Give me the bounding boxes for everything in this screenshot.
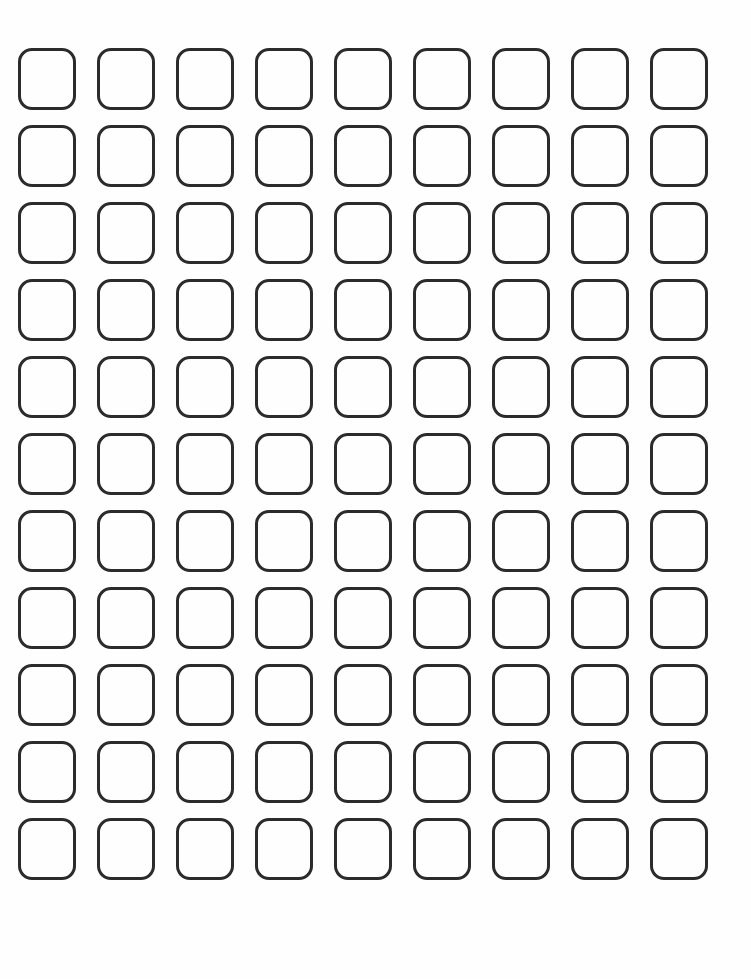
grid-cell[interactable] [255, 741, 313, 803]
grid-cell[interactable] [571, 48, 629, 110]
grid-cell[interactable] [334, 433, 392, 495]
grid-cell[interactable] [176, 664, 234, 726]
grid-cell[interactable] [97, 356, 155, 418]
grid-cell[interactable] [334, 587, 392, 649]
rounded-square-icon [650, 510, 708, 572]
grid-cell[interactable] [18, 279, 76, 341]
grid-cell[interactable] [650, 818, 708, 880]
grid-cell[interactable] [334, 356, 392, 418]
grid-cell[interactable] [571, 818, 629, 880]
grid-cell[interactable] [97, 433, 155, 495]
grid-cell[interactable] [492, 818, 550, 880]
grid-cell[interactable] [413, 125, 471, 187]
grid-cell[interactable] [18, 125, 76, 187]
grid-cell[interactable] [334, 279, 392, 341]
grid-cell[interactable] [413, 664, 471, 726]
grid-cell[interactable] [176, 202, 234, 264]
grid-cell[interactable] [334, 818, 392, 880]
grid-cell[interactable] [255, 664, 313, 726]
grid-cell[interactable] [176, 510, 234, 572]
grid-cell[interactable] [18, 202, 76, 264]
grid-cell[interactable] [413, 356, 471, 418]
grid-cell[interactable] [97, 664, 155, 726]
grid-cell[interactable] [176, 587, 234, 649]
grid-cell[interactable] [492, 356, 550, 418]
grid-cell[interactable] [650, 48, 708, 110]
grid-cell[interactable] [97, 510, 155, 572]
grid-cell[interactable] [492, 279, 550, 341]
grid-cell[interactable] [492, 48, 550, 110]
grid-cell[interactable] [255, 279, 313, 341]
grid-cell[interactable] [176, 818, 234, 880]
grid-cell[interactable] [97, 818, 155, 880]
grid-cell[interactable] [255, 587, 313, 649]
grid-cell[interactable] [255, 433, 313, 495]
grid-cell[interactable] [97, 279, 155, 341]
grid-cell[interactable] [18, 433, 76, 495]
grid-cell[interactable] [255, 202, 313, 264]
grid-cell[interactable] [334, 48, 392, 110]
grid-cell[interactable] [650, 741, 708, 803]
grid-cell[interactable] [176, 356, 234, 418]
grid-cell[interactable] [18, 664, 76, 726]
grid-cell[interactable] [97, 202, 155, 264]
grid-cell[interactable] [571, 279, 629, 341]
grid-cell[interactable] [18, 510, 76, 572]
grid-cell[interactable] [413, 741, 471, 803]
grid-cell[interactable] [176, 433, 234, 495]
grid-cell[interactable] [97, 125, 155, 187]
grid-cell[interactable] [18, 818, 76, 880]
grid-cell[interactable] [18, 741, 76, 803]
grid-cell[interactable] [571, 202, 629, 264]
grid-cell[interactable] [176, 48, 234, 110]
grid-cell[interactable] [413, 279, 471, 341]
grid-cell[interactable] [334, 125, 392, 187]
grid-cell[interactable] [571, 433, 629, 495]
grid-cell[interactable] [97, 587, 155, 649]
grid-cell[interactable] [413, 433, 471, 495]
grid-cell[interactable] [571, 510, 629, 572]
grid-cell[interactable] [650, 664, 708, 726]
grid-cell[interactable] [97, 48, 155, 110]
grid-cell[interactable] [650, 587, 708, 649]
grid-cell[interactable] [97, 741, 155, 803]
grid-cell[interactable] [571, 741, 629, 803]
grid-cell[interactable] [334, 664, 392, 726]
grid-cell[interactable] [176, 125, 234, 187]
grid-cell[interactable] [334, 510, 392, 572]
grid-cell[interactable] [650, 125, 708, 187]
grid-cell[interactable] [492, 433, 550, 495]
grid-cell[interactable] [413, 202, 471, 264]
grid-cell[interactable] [413, 510, 471, 572]
grid-cell[interactable] [650, 433, 708, 495]
grid-cell[interactable] [18, 356, 76, 418]
grid-cell[interactable] [492, 741, 550, 803]
grid-cell[interactable] [650, 356, 708, 418]
grid-cell[interactable] [492, 664, 550, 726]
grid-cell[interactable] [571, 664, 629, 726]
grid-cell[interactable] [571, 587, 629, 649]
grid-cell[interactable] [492, 202, 550, 264]
grid-cell[interactable] [334, 202, 392, 264]
grid-cell[interactable] [650, 510, 708, 572]
grid-cell[interactable] [413, 587, 471, 649]
grid-cell[interactable] [255, 818, 313, 880]
grid-cell[interactable] [492, 125, 550, 187]
grid-cell[interactable] [650, 279, 708, 341]
grid-cell[interactable] [255, 48, 313, 110]
grid-cell[interactable] [18, 587, 76, 649]
grid-cell[interactable] [334, 741, 392, 803]
grid-cell[interactable] [176, 279, 234, 341]
grid-cell[interactable] [255, 510, 313, 572]
grid-cell[interactable] [255, 356, 313, 418]
grid-cell[interactable] [413, 818, 471, 880]
grid-cell[interactable] [176, 741, 234, 803]
grid-cell[interactable] [492, 510, 550, 572]
grid-cell[interactable] [650, 202, 708, 264]
grid-cell[interactable] [492, 587, 550, 649]
grid-cell[interactable] [413, 48, 471, 110]
grid-cell[interactable] [571, 356, 629, 418]
grid-cell[interactable] [18, 48, 76, 110]
grid-cell[interactable] [571, 125, 629, 187]
grid-cell[interactable] [255, 125, 313, 187]
